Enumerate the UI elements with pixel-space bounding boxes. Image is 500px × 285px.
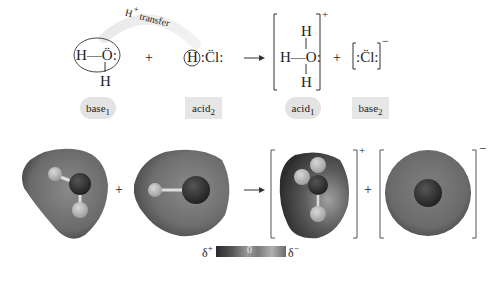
scale-label-zero: 0 — [247, 244, 252, 255]
label-acid1-text: acid — [292, 102, 310, 114]
water-lewis-structure: H—Ö: — [76, 48, 117, 63]
label-base2-sub: 2 — [378, 107, 383, 117]
scale-label-negative: δ− — [288, 243, 299, 261]
chloride-charge-bottom: − — [479, 141, 486, 157]
water-lone-pair: : — [113, 47, 117, 63]
label-acid2-sub: 2 — [210, 107, 215, 117]
label-base1-sub: 1 — [106, 107, 111, 117]
plus-sign-bottom-2: + — [364, 182, 372, 198]
plus-sign-top-2: + — [333, 50, 341, 66]
label-base1-text: base — [86, 102, 106, 114]
arrow-head-icon — [259, 55, 265, 61]
chloride-charge: − — [382, 34, 389, 49]
hydronium-h-atom-bottom — [310, 206, 326, 222]
label-base2-text: base — [358, 102, 378, 114]
hcl-lewis-structure: H:C̈l: — [187, 50, 223, 65]
hcl-cl: :C̈l: — [201, 49, 224, 65]
water-h-atom-1 — [48, 167, 62, 181]
water-h-bottom: H — [100, 74, 111, 89]
hcl-h-atom — [148, 183, 162, 197]
hydronium-h-atom-left — [294, 169, 310, 185]
label-base2: base2 — [352, 97, 389, 119]
label-acid1-sub: 1 — [310, 107, 315, 117]
label-acid1: acid1 — [285, 97, 321, 119]
diagram-canvas — [0, 0, 500, 285]
label-acid2-text: acid — [192, 102, 210, 114]
hydronium-h-bottom: H — [301, 75, 312, 90]
plus-sign-top-1: + — [145, 50, 153, 66]
scale-label-positive-sign: + — [208, 243, 213, 253]
chloride-bracket-bottom-right — [472, 150, 476, 238]
water-o-atom — [69, 173, 91, 195]
chloride-lewis-structure: :C̈l: — [356, 50, 379, 65]
chloride-bracket-bottom-left — [380, 150, 384, 238]
hcl-potential-surface — [134, 150, 230, 236]
hcl-h: H — [187, 49, 198, 65]
water-oxygen: Ö — [102, 47, 113, 63]
hydronium-bracket-bottom-right — [353, 150, 357, 238]
hydronium-h-left: H — [280, 49, 291, 65]
label-acid2: acid2 — [185, 97, 222, 119]
hydronium-bond-left: — — [291, 49, 306, 65]
hydronium-h-atom-top — [310, 157, 326, 173]
water-bond: — — [87, 47, 102, 63]
scale-label-positive: δ+ — [202, 243, 213, 261]
hydronium-oxygen: O: — [306, 49, 321, 65]
hydronium-charge-bottom: + — [359, 144, 365, 156]
hydronium-charge: + — [322, 8, 328, 20]
label-base1: base1 — [80, 97, 116, 119]
arrow-head-icon — [259, 187, 265, 193]
scale-label-negative-sign: − — [294, 243, 299, 253]
water-h-atom-2 — [72, 202, 88, 218]
chloride-cl-atom — [414, 179, 442, 207]
water-h-left: H — [76, 47, 87, 63]
hydronium-h-top: H — [301, 24, 312, 39]
hydronium-bracket-bottom-left — [271, 150, 275, 238]
water-potential-surface — [22, 149, 108, 239]
hydronium-bracket-left — [274, 14, 277, 90]
plus-sign-bottom-1: + — [115, 182, 123, 198]
hydronium-o-atom — [308, 175, 328, 195]
hcl-cl-atom — [182, 176, 210, 204]
hydronium-middle: H—O: — [280, 50, 321, 65]
